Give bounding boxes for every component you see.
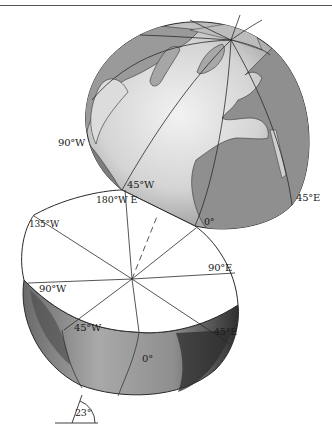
label-plane-45e: 45°E xyxy=(214,326,237,337)
label-upper-45e: 45°E xyxy=(296,192,320,203)
globe-diagram xyxy=(0,0,332,435)
label-upper-0: 0° xyxy=(204,216,214,227)
label-upper-45w: 45°W xyxy=(127,179,154,190)
label-plane-45w: 45°W xyxy=(74,322,101,333)
label-upper-90w: 90°W xyxy=(58,137,85,148)
label-tilt-angle: 23° xyxy=(75,407,91,418)
label-plane-90e: 90°E xyxy=(208,262,232,273)
label-plane-0: 0° xyxy=(142,353,153,364)
label-plane-135w: 135°W xyxy=(29,219,59,229)
label-plane-90w: 90°W xyxy=(39,283,66,294)
label-upper-180: 180°W E xyxy=(96,194,137,205)
